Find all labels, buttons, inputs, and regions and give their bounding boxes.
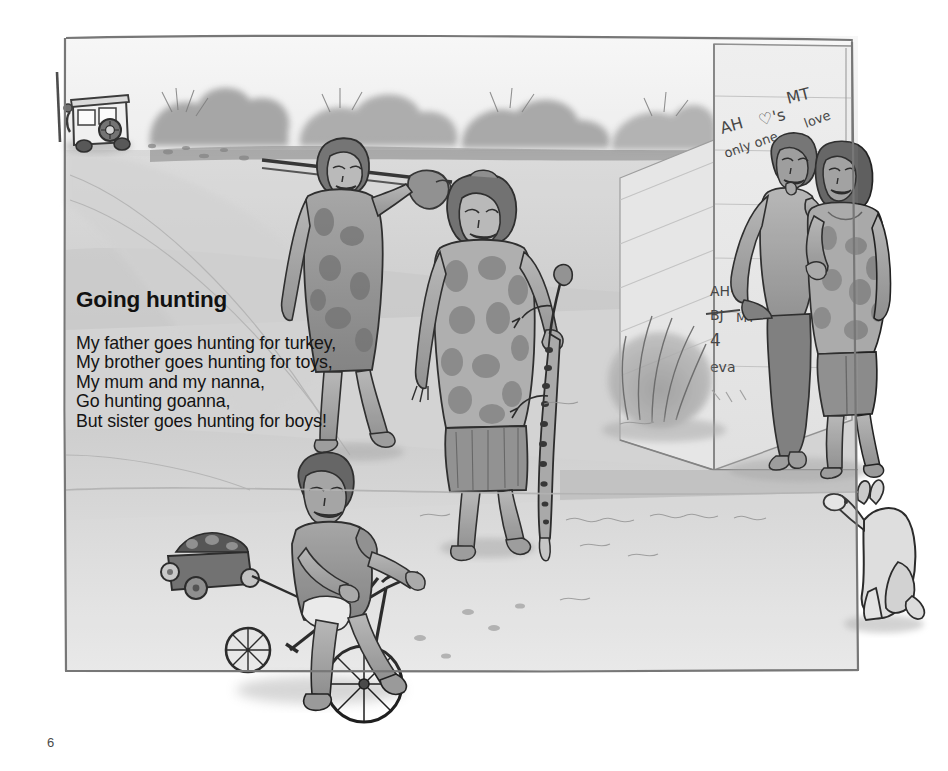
- poem-line: My father goes hunting for turkey,: [76, 334, 346, 354]
- page-number: 6: [47, 735, 54, 750]
- page-title: Going hunting: [76, 288, 346, 312]
- page-margin-mask: [0, 0, 66, 38]
- poem-block: Going hunting My father goes hunting for…: [76, 288, 346, 432]
- poem-body: My father goes hunting for turkey, My br…: [76, 334, 346, 432]
- foot-right: [864, 464, 884, 477]
- book-page: AH ♡'s MT only one love AH+ BJ MT 4 eva: [0, 0, 948, 771]
- poem-line: My mum and my nanna,: [76, 373, 346, 393]
- poem-line: But sister goes hunting for boys!: [76, 412, 346, 432]
- poem-line: Go hunting goanna,: [76, 392, 346, 412]
- foot-near: [304, 694, 332, 710]
- poem-line: My brother goes hunting for toys,: [76, 353, 346, 373]
